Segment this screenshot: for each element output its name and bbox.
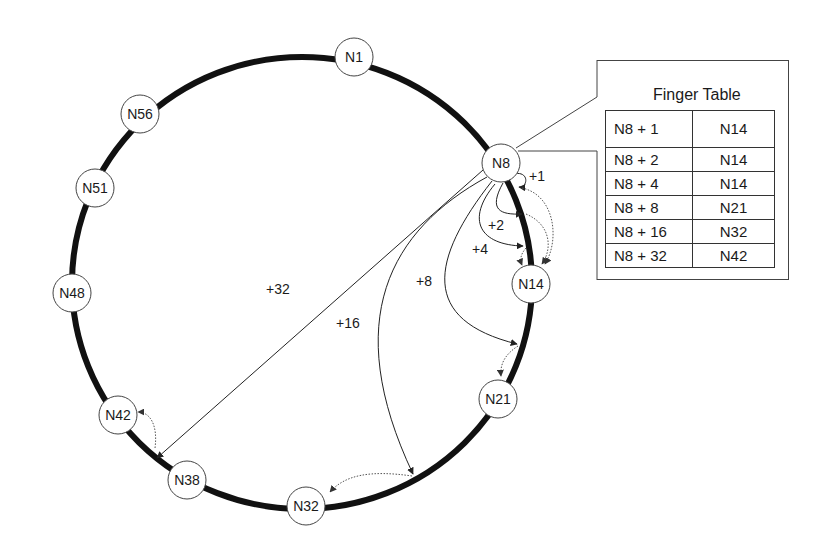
finger-label-16: +16: [336, 315, 360, 331]
node-N56[interactable]: N56: [121, 95, 159, 133]
node-N51[interactable]: N51: [76, 169, 114, 207]
finger-label-8: +8: [416, 273, 432, 289]
table-row: N8 + 1 N14: [606, 111, 775, 148]
finger-label-32: +32: [266, 281, 290, 297]
finger-successor: N14: [693, 111, 775, 148]
node-N8[interactable]: N8: [482, 144, 520, 182]
finger-table-title: Finger Table: [653, 86, 741, 104]
node-label: N42: [105, 407, 131, 423]
finger-label-4: +4: [472, 241, 488, 257]
node-label: N1: [345, 49, 363, 65]
finger-start: N8 + 2: [606, 148, 693, 172]
table-row: N8 + 32 N42: [606, 244, 775, 268]
node-label: N48: [59, 285, 85, 301]
finger-arrow-32: [157, 170, 483, 458]
callout-connector-top: [516, 97, 597, 148]
finger-successor: N14: [693, 172, 775, 196]
table-row: N8 + 4 N14: [606, 172, 775, 196]
finger-table: N8 + 1 N14 N8 + 2 N14 N8 + 4 N14 N8 + 8 …: [605, 110, 775, 268]
node-N1[interactable]: N1: [335, 38, 373, 76]
node-N48[interactable]: N48: [53, 274, 91, 312]
node-N21[interactable]: N21: [479, 380, 517, 418]
finger-label-1: +1: [529, 168, 545, 184]
node-N42[interactable]: N42: [99, 396, 137, 434]
finger-successor: N21: [693, 196, 775, 220]
node-label: N38: [174, 472, 200, 488]
finger-start: N8 + 1: [606, 111, 693, 148]
node-N38[interactable]: N38: [168, 461, 206, 499]
table-row: N8 + 2 N14: [606, 148, 775, 172]
node-label: N21: [485, 391, 511, 407]
table-row: N8 + 16 N32: [606, 220, 775, 244]
finger-label-2: +2: [488, 217, 504, 233]
node-label: N32: [293, 498, 319, 514]
node-N32[interactable]: N32: [287, 487, 325, 525]
node-label: N8: [492, 155, 510, 171]
finger-start: N8 + 8: [606, 196, 693, 220]
finger-start: N8 + 32: [606, 244, 693, 268]
finger-start: N8 + 4: [606, 172, 693, 196]
finger-successor: N14: [693, 148, 775, 172]
finger-start: N8 + 16: [606, 220, 693, 244]
finger-arrow-8: [445, 181, 517, 344]
successor-dotted-4: [521, 248, 526, 265]
node-N14[interactable]: N14: [512, 265, 550, 303]
node-label: N56: [127, 106, 153, 122]
table-row: N8 + 8 N21: [606, 196, 775, 220]
finger-successor: N32: [693, 220, 775, 244]
finger-arrow-4: [479, 184, 523, 246]
finger-successor: N42: [693, 244, 775, 268]
node-label: N51: [82, 180, 108, 196]
node-label: N14: [518, 276, 544, 292]
